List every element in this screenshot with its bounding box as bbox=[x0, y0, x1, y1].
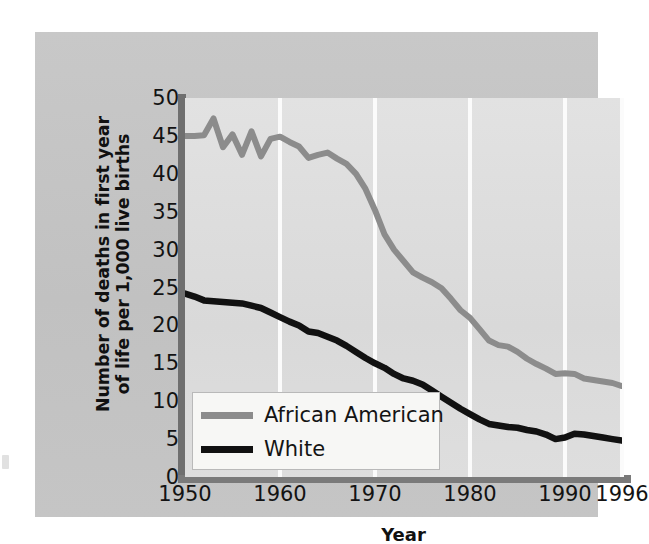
y-tick-label: 25 bbox=[135, 277, 179, 298]
page-scan-artifact bbox=[2, 455, 9, 469]
x-tick-label: 1996 bbox=[595, 484, 648, 505]
x-tick-label: 1960 bbox=[253, 484, 306, 505]
y-axis-tick-labels: 05101520253035404550 bbox=[135, 92, 179, 482]
chart-figure-panel: Number of deaths in first year of life p… bbox=[35, 32, 598, 517]
series-line-african-american bbox=[185, 118, 622, 386]
y-tick-label: 50 bbox=[135, 88, 179, 109]
x-axis-tick-labels: 195019601970198019901996 bbox=[135, 484, 645, 516]
x-axis-title: Year bbox=[185, 524, 622, 544]
y-tick-label: 30 bbox=[135, 239, 179, 260]
y-tick-label: 20 bbox=[135, 315, 179, 336]
y-axis-title-line-1: Number of deaths in first year bbox=[94, 116, 114, 412]
legend-swatch-white bbox=[201, 446, 253, 453]
x-tick-label: 1980 bbox=[443, 484, 496, 505]
legend-label-african-american: African American bbox=[264, 405, 444, 426]
x-tick-label: 1970 bbox=[348, 484, 401, 505]
x-tick-label: 1990 bbox=[538, 484, 591, 505]
legend-swatch-african-american bbox=[201, 412, 253, 419]
legend-item: African American bbox=[201, 398, 431, 432]
chart-legend: African American White bbox=[192, 392, 440, 470]
y-tick-label: 5 bbox=[135, 429, 179, 450]
legend-item: White bbox=[201, 432, 431, 466]
x-tick-label: 1950 bbox=[158, 484, 211, 505]
y-tick-label: 10 bbox=[135, 391, 179, 412]
y-tick-label: 40 bbox=[135, 163, 179, 184]
y-tick-label: 45 bbox=[135, 125, 179, 146]
y-tick-label: 35 bbox=[135, 201, 179, 222]
y-axis-title-line-2: of life per 1,000 live births bbox=[114, 116, 134, 412]
y-tick-label: 15 bbox=[135, 353, 179, 374]
legend-label-white: White bbox=[264, 439, 325, 460]
